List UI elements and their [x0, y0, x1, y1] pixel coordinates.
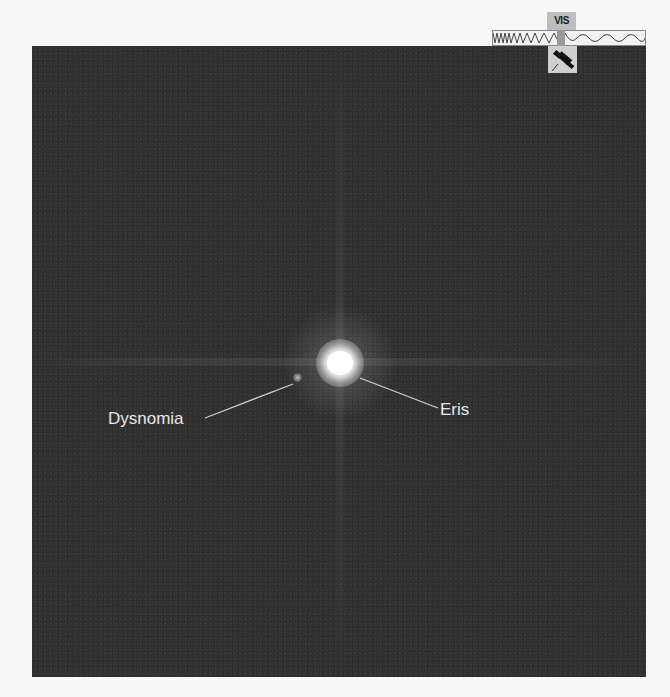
telescope-icon [548, 46, 577, 73]
astronomy-image: Dysnomia Eris [32, 46, 646, 677]
dysnomia-label: Dysnomia [108, 409, 184, 429]
eris-label: Eris [440, 400, 469, 420]
band-marker [557, 30, 565, 46]
label-leader-lines [32, 46, 646, 677]
wavelength-wave-icon [492, 30, 646, 46]
band-label: VIS [547, 12, 576, 30]
